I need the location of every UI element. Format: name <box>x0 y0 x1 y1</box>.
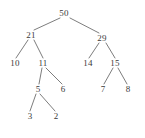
tree-node-29: 29 <box>97 34 106 43</box>
tree-edge <box>118 68 127 84</box>
tree-edge-layer <box>0 0 145 138</box>
tree-edge <box>34 40 43 58</box>
tree-node-15: 15 <box>110 59 119 68</box>
tree-node-50: 50 <box>59 9 68 18</box>
tree-node-2: 2 <box>54 112 59 121</box>
tree-node-7: 7 <box>101 85 106 94</box>
tree-node-8: 8 <box>126 85 131 94</box>
tree-edge <box>39 68 42 84</box>
tree-node-3: 3 <box>28 112 33 121</box>
tree-edge <box>104 68 113 84</box>
tree-edge <box>30 94 36 111</box>
tree-node-11: 11 <box>38 59 47 68</box>
tree-edge <box>40 94 55 111</box>
tree-edge <box>106 43 115 58</box>
tree-node-21: 21 <box>26 31 35 40</box>
tree-node-6: 6 <box>61 85 66 94</box>
tree-edge <box>70 18 99 33</box>
tree-edge <box>46 68 62 84</box>
tree-node-10: 10 <box>10 59 19 68</box>
tree-node-14: 14 <box>83 59 92 68</box>
tree-edge <box>89 43 99 58</box>
tree-node-5: 5 <box>36 85 41 94</box>
tree-edge <box>16 40 28 58</box>
binary-tree-figure: 50212910111415567832 <box>0 0 145 138</box>
tree-edge <box>34 18 60 30</box>
